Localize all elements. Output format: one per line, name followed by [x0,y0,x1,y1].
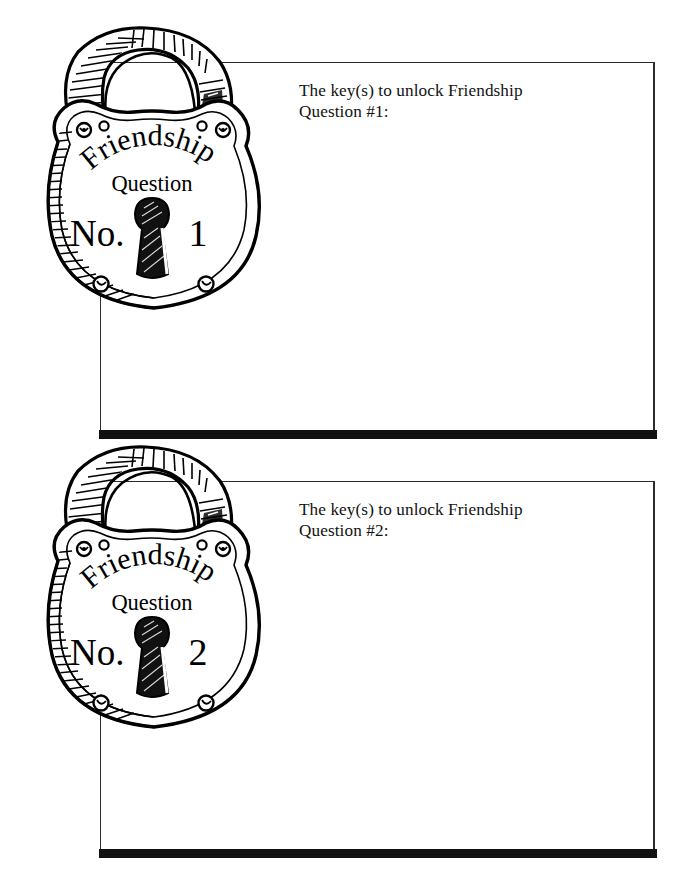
box-bottom-bar-2 [99,849,657,858]
prompt-text-2: The key(s) to unlock Friendship Question… [299,499,629,542]
box-bottom-bar-1 [99,430,657,439]
answer-box-1[interactable]: The key(s) to unlock Friendship Question… [100,62,655,430]
answer-box-2[interactable]: The key(s) to unlock Friendship Question… [100,481,655,849]
worksheet-page: The key(s) to unlock Friendship Question… [0,0,686,891]
question-block-2: The key(s) to unlock Friendship Question… [100,481,655,849]
prompt-text-1: The key(s) to unlock Friendship Question… [299,80,629,123]
question-block-1: The key(s) to unlock Friendship Question… [100,62,655,430]
